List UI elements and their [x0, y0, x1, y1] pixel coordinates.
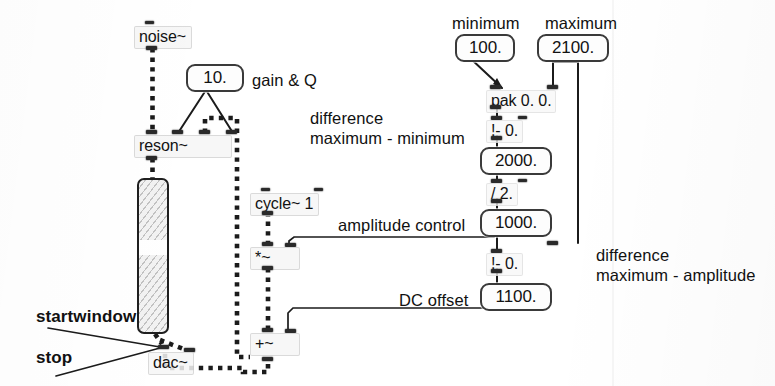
- paper-texture: [0, 0, 775, 386]
- reson-inlet-3[interactable]: [199, 130, 210, 134]
- object-mult-tilde[interactable]: *~: [250, 247, 300, 270]
- cord-amp-to-mult-right: [289, 237, 494, 246]
- scan-seam: [612, 0, 614, 386]
- object-plus-tilde[interactable]: +~: [250, 333, 300, 356]
- plus-outlet[interactable]: [262, 357, 273, 361]
- subinv2-outlet[interactable]: [491, 269, 502, 273]
- gain-slider[interactable]: [137, 178, 169, 334]
- pak-inlet-right[interactable]: [547, 85, 558, 89]
- cycle-outlet[interactable]: [262, 211, 273, 215]
- dac-inlet-left[interactable]: [158, 345, 169, 349]
- patch-cords: .sig{ stroke:#1b1b1b; stroke-width:4.6; …: [0, 0, 775, 386]
- reson-inlet-4[interactable]: [226, 130, 237, 134]
- object-noise[interactable]: noise~: [134, 26, 192, 49]
- numbox-maximum[interactable]: 2100.: [537, 34, 609, 62]
- divide-inlet-right[interactable]: [518, 179, 527, 182]
- cord-max-to-subinv2: [553, 62, 578, 243]
- reson-inlet-1[interactable]: [146, 130, 157, 134]
- divide-outlet[interactable]: [491, 199, 502, 203]
- subinv1-outlet[interactable]: [491, 136, 502, 140]
- comment-dc-offset: DC offset: [399, 290, 468, 310]
- pak-inlet-left[interactable]: [490, 85, 501, 89]
- cord-min-to-pak: [470, 58, 502, 88]
- comment-minimum: minimum: [452, 13, 520, 33]
- cycle-inlet-right[interactable]: [314, 188, 323, 191]
- gain-slider-notch: [139, 240, 167, 255]
- label-startwindow[interactable]: startwindow: [36, 307, 136, 327]
- comment-amplitude-control: amplitude control: [338, 215, 465, 235]
- subinv1-inlet-right[interactable]: [518, 116, 527, 119]
- cord-offset-to-plus-right: [288, 308, 494, 329]
- comment-difference-max-amp-1: difference: [596, 245, 669, 265]
- comment-difference-max-amp-2: maximum - amplitude: [596, 265, 756, 285]
- pak-outlet[interactable]: [490, 105, 501, 109]
- mult-inlet-left[interactable]: [262, 242, 273, 246]
- comment-difference-max-min-1: difference: [310, 108, 383, 128]
- comment-maximum: maximum: [545, 13, 617, 33]
- mult-outlet[interactable]: [262, 266, 273, 270]
- numbox-minimum[interactable]: 100.: [455, 34, 515, 62]
- reson-inlet-2[interactable]: [172, 130, 183, 134]
- object-reson[interactable]: reson~: [134, 135, 232, 158]
- cord-gain-to-reson-in2: [178, 90, 206, 133]
- object-pak[interactable]: pak 0. 0.: [486, 90, 556, 113]
- numbox-gain-q[interactable]: 10.: [186, 64, 244, 92]
- comment-difference-max-min-2: maximum - minimum: [310, 128, 465, 148]
- noise-outlet-marker: [145, 21, 154, 24]
- object-dac[interactable]: dac~: [148, 352, 194, 375]
- plus-inlet-left[interactable]: [262, 328, 273, 332]
- cord-gain-to-reson-in4: [206, 90, 233, 133]
- numbox-difference[interactable]: 2000.: [480, 147, 552, 175]
- patch-canvas: .sig{ stroke:#1b1b1b; stroke-width:4.6; …: [0, 0, 775, 386]
- noise-outlet[interactable]: [146, 46, 157, 50]
- cycle-inlet-left[interactable]: [261, 188, 270, 191]
- numbox-amplitude[interactable]: 1000.: [480, 209, 552, 237]
- object-cycle[interactable]: cycle~ 1: [250, 193, 319, 216]
- comment-gain-and-q: gain & Q: [252, 70, 317, 90]
- subinv2-inlet-right[interactable]: [547, 241, 558, 245]
- label-stop[interactable]: stop: [36, 348, 72, 368]
- cord-gain-to-dac-left: [155, 334, 162, 344]
- reson-outlet[interactable]: [146, 156, 157, 160]
- numbox-dc-offset[interactable]: 1100.: [480, 283, 552, 311]
